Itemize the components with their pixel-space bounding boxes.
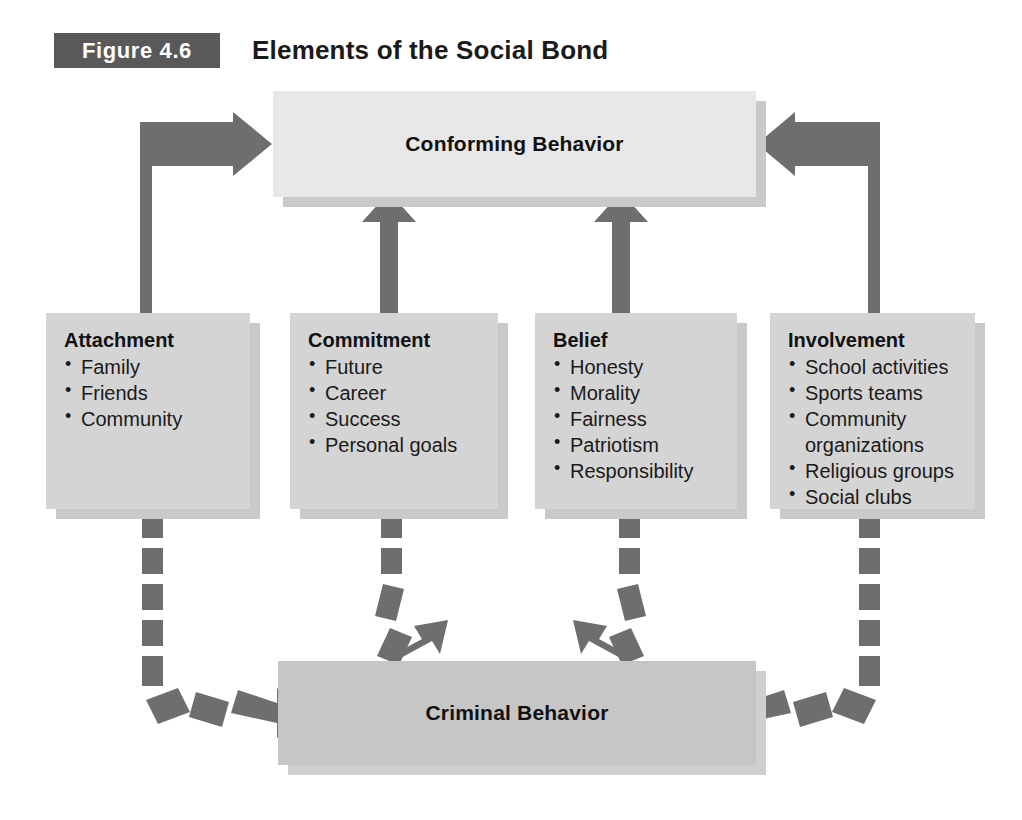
node-item: Sports teams	[788, 380, 961, 406]
node-item: Honesty	[553, 354, 723, 380]
node-label: Conforming Behavior	[405, 132, 623, 156]
node-item: Morality	[553, 380, 723, 406]
node-item: Friends	[64, 380, 236, 406]
figure-title: Elements of the Social Bond	[252, 33, 608, 68]
figure-container: Figure 4.6 Elements of the Social Bond	[0, 0, 1022, 820]
node-involvement: Involvement School activitiesSports team…	[770, 313, 975, 509]
node-item: Patriotism	[553, 432, 723, 458]
node-conforming-behavior: Conforming Behavior	[273, 91, 756, 197]
box-face: Conforming Behavior	[273, 91, 756, 197]
node-item: Responsibility	[553, 458, 723, 484]
box-face: Involvement School activitiesSports team…	[770, 313, 975, 509]
node-item: Fairness	[553, 406, 723, 432]
node-attachment: Attachment FamilyFriendsCommunity	[46, 313, 250, 509]
node-item: Career	[308, 380, 484, 406]
node-item: Community organizations	[788, 406, 961, 458]
node-title: Belief	[553, 329, 723, 353]
node-item-list: FamilyFriendsCommunity	[64, 354, 236, 432]
node-item: Future	[308, 354, 484, 380]
edge-involvement-to-conforming	[757, 112, 880, 330]
node-item-list: FutureCareerSuccessPersonal goals	[308, 354, 484, 458]
box-face: Commitment FutureCareerSuccessPersonal g…	[290, 313, 498, 509]
box-face: Belief HonestyMoralityFairnessPatriotism…	[535, 313, 737, 509]
node-title: Involvement	[788, 329, 961, 353]
node-item-list: HonestyMoralityFairnessPatriotismRespons…	[553, 354, 723, 484]
node-title: Attachment	[64, 329, 236, 353]
edge-commitment-to-criminal	[375, 512, 448, 665]
node-label: Criminal Behavior	[425, 701, 608, 725]
node-item: School activities	[788, 354, 961, 380]
node-item: Personal goals	[308, 432, 484, 458]
edge-attachment-to-conforming	[140, 112, 272, 330]
figure-number-label: Figure 4.6	[82, 40, 192, 62]
node-title: Commitment	[308, 329, 484, 353]
edge-belief-to-criminal	[573, 512, 646, 665]
node-item: Success	[308, 406, 484, 432]
node-item: Religious groups	[788, 458, 961, 484]
figure-number-badge: Figure 4.6	[54, 33, 220, 68]
box-face: Attachment FamilyFriendsCommunity	[46, 313, 250, 509]
node-criminal-behavior: Criminal Behavior	[278, 661, 756, 765]
node-item: Community	[64, 406, 236, 432]
box-face: Criminal Behavior	[278, 661, 756, 765]
node-item: Social clubs	[788, 484, 961, 510]
node-item: Family	[64, 354, 236, 380]
edge-belief-to-conforming	[594, 192, 648, 313]
edge-commitment-to-conforming	[362, 192, 416, 313]
node-commitment: Commitment FutureCareerSuccessPersonal g…	[290, 313, 498, 509]
node-belief: Belief HonestyMoralityFairnessPatriotism…	[535, 313, 737, 509]
node-item-list: School activitiesSports teamsCommunity o…	[788, 354, 961, 510]
